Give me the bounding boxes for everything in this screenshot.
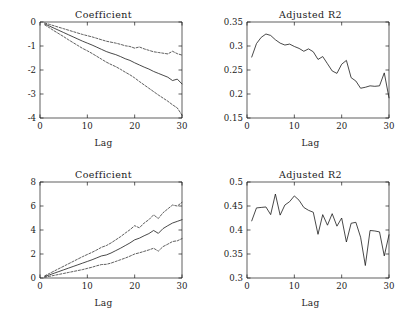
axis-frame bbox=[40, 22, 182, 118]
x-tick-label: 20 bbox=[129, 281, 140, 291]
xlabel-top-left: Lag bbox=[0, 138, 207, 148]
xlabel-bottom-left: Lag bbox=[0, 298, 207, 308]
ticks-top-left: 0102030-4-3-2-10 bbox=[28, 17, 188, 131]
plot-top-left: 0102030-4-3-2-10 bbox=[0, 0, 207, 160]
y-tick-label: 0.2 bbox=[229, 89, 243, 99]
x-tick-label: 10 bbox=[82, 121, 93, 131]
series-line bbox=[45, 25, 182, 115]
series-line bbox=[45, 202, 182, 275]
y-tick-label: 2 bbox=[31, 249, 36, 259]
y-tick-label: 4 bbox=[31, 225, 37, 235]
x-tick-label: 30 bbox=[384, 121, 395, 131]
x-tick-label: 0 bbox=[37, 281, 42, 291]
y-tick-label: 0.25 bbox=[224, 65, 243, 75]
panel-top-left: Coefficient 0102030-4-3-2-10 Lag bbox=[0, 0, 207, 160]
axes-bottom-left bbox=[40, 182, 182, 278]
plot-bottom-right: 01020300.30.350.40.450.5 bbox=[207, 160, 414, 320]
x-tick-label: 30 bbox=[384, 281, 395, 291]
x-tick-label: 20 bbox=[336, 281, 347, 291]
curves-bottom-left bbox=[45, 202, 182, 277]
y-tick-label: 0.35 bbox=[224, 17, 243, 27]
axis-frame bbox=[40, 182, 182, 278]
y-tick-label: 0.35 bbox=[224, 249, 243, 259]
y-tick-label: 0.45 bbox=[224, 201, 243, 211]
plot-top-right: 01020300.150.20.250.30.35 bbox=[207, 0, 414, 160]
ticks-bottom-left: 010203002468 bbox=[31, 177, 188, 291]
series-line bbox=[252, 194, 389, 266]
series-line bbox=[252, 34, 389, 98]
y-tick-label: -2 bbox=[28, 65, 36, 75]
x-tick-label: 0 bbox=[244, 121, 249, 131]
axes-top-right bbox=[247, 22, 389, 118]
y-tick-label: -1 bbox=[28, 41, 36, 51]
axes-bottom-right bbox=[247, 182, 389, 278]
x-tick-label: 20 bbox=[336, 121, 347, 131]
y-tick-label: -3 bbox=[28, 89, 36, 99]
x-tick-label: 30 bbox=[177, 281, 188, 291]
y-tick-label: 0.3 bbox=[229, 273, 243, 283]
y-tick-label: -4 bbox=[28, 113, 37, 123]
curves-top-left bbox=[45, 23, 182, 115]
y-tick-label: 0 bbox=[31, 17, 36, 27]
panel-bottom-left: Coefficient 010203002468 Lag bbox=[0, 160, 207, 320]
x-tick-label: 10 bbox=[289, 281, 300, 291]
x-tick-label: 0 bbox=[244, 281, 249, 291]
figure-canvas: Coefficient 0102030-4-3-2-10 Lag Adjuste… bbox=[0, 0, 415, 321]
series-line bbox=[45, 24, 182, 84]
ticks-bottom-right: 01020300.30.350.40.450.5 bbox=[224, 177, 395, 291]
ticks-top-right: 01020300.150.20.250.30.35 bbox=[224, 17, 395, 131]
y-tick-label: 0.4 bbox=[229, 225, 243, 235]
x-tick-label: 30 bbox=[177, 121, 188, 131]
series-line bbox=[45, 23, 182, 55]
series-line bbox=[45, 239, 182, 278]
x-tick-label: 20 bbox=[129, 121, 140, 131]
xlabel-bottom-right: Lag bbox=[207, 298, 414, 308]
x-tick-label: 10 bbox=[289, 121, 300, 131]
axes-top-left bbox=[40, 22, 182, 118]
y-tick-label: 6 bbox=[31, 201, 36, 211]
panel-bottom-right: Adjusted R2 01020300.30.350.40.450.5 Lag bbox=[207, 160, 414, 320]
axis-frame bbox=[247, 182, 389, 278]
panel-top-right: Adjusted R2 01020300.150.20.250.30.35 La… bbox=[207, 0, 414, 160]
curves-top-right bbox=[252, 34, 389, 98]
y-tick-label: 0.15 bbox=[224, 113, 243, 123]
x-tick-label: 10 bbox=[82, 281, 93, 291]
plot-bottom-left: 010203002468 bbox=[0, 160, 207, 320]
axis-frame bbox=[247, 22, 389, 118]
curves-bottom-right bbox=[252, 194, 389, 266]
y-tick-label: 8 bbox=[31, 177, 36, 187]
xlabel-top-right: Lag bbox=[207, 138, 414, 148]
y-tick-label: 0 bbox=[31, 273, 36, 283]
y-tick-label: 0.3 bbox=[229, 41, 243, 51]
x-tick-label: 0 bbox=[37, 121, 42, 131]
y-tick-label: 0.5 bbox=[229, 177, 243, 187]
